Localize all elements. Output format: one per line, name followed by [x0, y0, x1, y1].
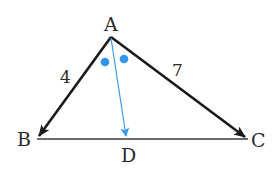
side-length-ac: 7	[172, 60, 183, 80]
vertex-label-c: C	[251, 129, 266, 151]
segment-ac-arrow	[111, 37, 245, 137]
angle-mark-dot-left	[101, 58, 110, 67]
angle-mark-dot-right	[120, 55, 129, 64]
vertex-label-b: B	[17, 128, 31, 150]
bisector-ad-arrow	[111, 38, 126, 136]
triangle-diagram: A B C D 4 7	[0, 0, 280, 174]
segment-ab-arrow	[39, 37, 111, 136]
vertex-label-a: A	[103, 13, 118, 35]
side-length-ab: 4	[60, 67, 71, 87]
vertex-label-d: D	[121, 144, 136, 166]
